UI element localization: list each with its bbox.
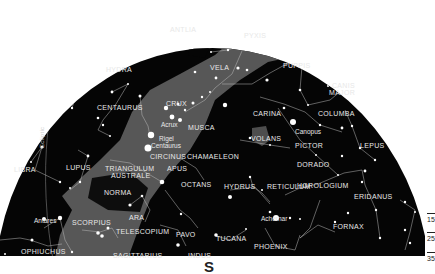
constellation-label-australe: AUSTRALE (111, 172, 150, 180)
constellation-label-lupus: LUPUS (66, 164, 91, 172)
constellation-label-apus: APUS (167, 165, 187, 173)
constellation-label-lepus: LEPUS (360, 142, 384, 150)
constellation-label-carina: CARINA (253, 110, 281, 118)
constellation-label-major: MAJOR (329, 89, 355, 97)
constellation-label-phoenix: PHOENIX (254, 243, 288, 251)
constellation-label-pavo: PAVO (176, 231, 196, 239)
constellation-label-musca: MUSCA (188, 124, 215, 132)
constellation-label-dorado: DORADO (297, 161, 330, 169)
constellation-label-fornax: FORNAX (333, 223, 364, 231)
star-label-achernar: Achernar (261, 215, 287, 223)
constellation-label-crux: CRUX (166, 100, 187, 108)
constellation-label-norma: NORMA (104, 189, 132, 197)
constellation-label-chamaeleon: CHAMAELEON (187, 153, 239, 161)
star-chart (0, 0, 435, 274)
constellation-label-puppis: PUPPIS (283, 62, 310, 70)
star-label-antares: Antares (34, 217, 56, 225)
constellation-label-ara: ARA (129, 214, 144, 222)
constellation-label-libra: LIBRA (14, 166, 36, 174)
constellation-label-tucana: TUCANA (216, 235, 247, 243)
constellation-label-hydrus: HYDRUS (224, 183, 255, 191)
constellation-label-horologium: HOROLOGIUM (297, 182, 349, 190)
star-label-canopus: Canopus (295, 128, 321, 136)
constellation-label-pictor: PICTOR (295, 142, 323, 150)
constellation-label-vela: VELA (210, 64, 229, 72)
constellation-label-scorpius: SCORPIUS (72, 219, 111, 227)
constellation-label-centaurus: CENTAURUS (97, 104, 143, 112)
constellation-label-octans: OCTANS (181, 181, 211, 189)
scale-mark-35: 35 (427, 252, 435, 263)
constellation-label-ophiuchus: OPHIUCHUS (21, 248, 66, 256)
constellation-label-telescopium: TELESCOPIUM (116, 228, 169, 236)
constellation-label-pyxis: PYXIS (244, 32, 266, 40)
constellation-label-circinus: CIRCINUS (150, 153, 186, 161)
cardinal-south-label: S (204, 258, 214, 274)
ecliptic-label: Ecliptic (38, 127, 46, 148)
constellation-label-columba: COLUMBA (318, 110, 355, 118)
constellation-label-eridanus: ERIDANUS (354, 193, 393, 201)
constellation-label-sagittarius: SAGITTARIUS (113, 252, 162, 260)
star-label-centaurus: Centaurus (151, 142, 181, 150)
star-label-acrux: Acrux (161, 121, 178, 129)
constellation-label-volans: VOLANS (251, 135, 281, 143)
scale-mark-15: 15 (427, 213, 435, 224)
constellation-label-antlia: ANTLIA (170, 26, 196, 34)
constellation-label-hydra: HYDRA (106, 66, 132, 74)
scale-mark-25: 25 (427, 232, 435, 243)
